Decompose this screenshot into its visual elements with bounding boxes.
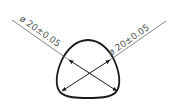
technical-drawing: ø 20±0.05 ø 20±0.05 xyxy=(0,0,178,109)
left-dimension-label: ø 20±0.05 xyxy=(18,13,63,48)
left-diameter-line xyxy=(69,60,117,91)
right-dimension-label: ø 20±0.05 xyxy=(106,22,151,57)
right-diameter-line xyxy=(62,60,110,91)
